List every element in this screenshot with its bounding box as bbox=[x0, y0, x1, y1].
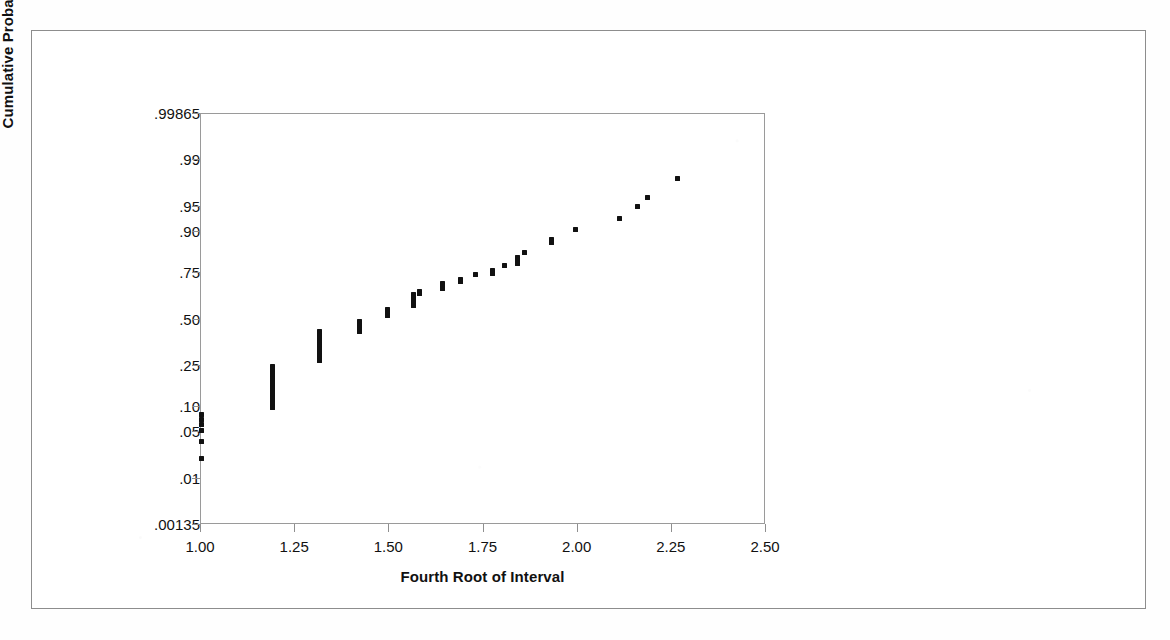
data-point bbox=[199, 428, 204, 433]
data-point bbox=[385, 313, 390, 318]
x-tick-label: 2.25 bbox=[631, 538, 711, 555]
y-tick-label: .05 bbox=[110, 423, 200, 440]
y-tick-mark bbox=[192, 524, 200, 525]
y-tick-label: .10 bbox=[110, 398, 200, 415]
x-axis-title: Fourth Root of Interval bbox=[200, 568, 765, 585]
data-point bbox=[199, 417, 204, 422]
data-point bbox=[411, 303, 416, 308]
data-point bbox=[440, 286, 445, 291]
x-tick-mark bbox=[388, 524, 389, 532]
data-point bbox=[199, 422, 204, 427]
data-point bbox=[458, 279, 463, 284]
x-tick-label: 2.50 bbox=[725, 538, 805, 555]
data-point bbox=[417, 291, 422, 296]
y-tick-mark bbox=[192, 272, 200, 273]
x-tick-mark bbox=[577, 524, 578, 532]
data-point bbox=[490, 271, 495, 276]
plot-frame bbox=[200, 113, 765, 524]
data-point bbox=[635, 204, 640, 209]
x-tick-mark bbox=[200, 524, 201, 532]
y-tick-label: .90 bbox=[110, 222, 200, 239]
data-point bbox=[317, 358, 322, 363]
y-tick-label: .99 bbox=[110, 151, 200, 168]
y-tick-mark bbox=[192, 159, 200, 160]
data-point bbox=[270, 405, 275, 410]
data-point bbox=[573, 227, 578, 232]
x-axis-ticks: 1.001.251.501.752.002.252.50 bbox=[200, 524, 765, 564]
x-tick-mark bbox=[294, 524, 295, 532]
y-axis-tick-labels: .99865.99.95.90.75.50.25.10.05.01.00135 bbox=[92, 113, 200, 524]
y-tick-mark bbox=[192, 231, 200, 232]
y-tick-label: .99865 bbox=[110, 105, 200, 122]
y-tick-mark bbox=[192, 319, 200, 320]
y-tick-label: .00135 bbox=[110, 516, 200, 533]
y-tick-label: .50 bbox=[110, 310, 200, 327]
data-point bbox=[473, 272, 478, 277]
data-point bbox=[199, 439, 204, 444]
scatter-plot-area bbox=[201, 114, 764, 523]
figure-container: Cumulative Probability .99865.99.95.90.7… bbox=[0, 0, 1170, 640]
x-tick-label: 1.50 bbox=[348, 538, 428, 555]
y-tick-label: .01 bbox=[110, 469, 200, 486]
y-tick-label: .95 bbox=[110, 197, 200, 214]
data-point bbox=[357, 329, 362, 334]
data-point bbox=[549, 240, 554, 245]
y-tick-mark bbox=[192, 206, 200, 207]
x-tick-mark bbox=[765, 524, 766, 532]
x-tick-mark bbox=[483, 524, 484, 532]
data-point bbox=[199, 456, 204, 461]
data-point bbox=[645, 195, 650, 200]
data-point bbox=[675, 176, 680, 181]
data-point bbox=[515, 261, 520, 266]
y-axis-title: Cumulative Probability bbox=[0, 0, 16, 196]
x-tick-label: 1.00 bbox=[160, 538, 240, 555]
x-tick-label: 1.75 bbox=[443, 538, 523, 555]
y-axis-tick-marks bbox=[192, 113, 200, 524]
y-tick-mark bbox=[192, 113, 200, 114]
data-point bbox=[502, 263, 507, 268]
x-tick-label: 1.25 bbox=[254, 538, 334, 555]
x-tick-label: 2.00 bbox=[537, 538, 617, 555]
data-point bbox=[522, 250, 527, 255]
y-tick-mark bbox=[192, 365, 200, 366]
x-tick-mark bbox=[671, 524, 672, 532]
y-tick-mark bbox=[192, 406, 200, 407]
y-tick-mark bbox=[192, 478, 200, 479]
y-tick-label: .75 bbox=[110, 264, 200, 281]
y-tick-label: .25 bbox=[110, 356, 200, 373]
data-point bbox=[617, 216, 622, 221]
